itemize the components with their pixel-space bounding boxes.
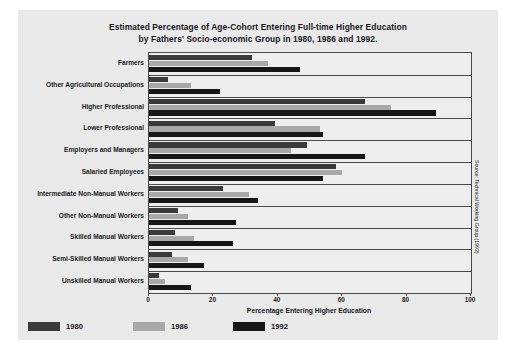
bar-1992 xyxy=(149,67,300,72)
category-label: Other Agricultural Occupations xyxy=(18,81,144,88)
bar-1980 xyxy=(149,77,168,82)
bar-1980 xyxy=(149,99,365,104)
legend-item-1980: 1980 xyxy=(28,320,83,332)
chart-title-line-1: Estimated Percentage of Age-Cohort Enter… xyxy=(109,22,407,32)
bar-1992 xyxy=(149,241,233,246)
bar-1986 xyxy=(149,279,165,284)
bar-group xyxy=(149,249,471,271)
bar-1980 xyxy=(149,55,252,60)
bar-1980 xyxy=(149,186,223,191)
x-axis-tick-label: 40 xyxy=(273,296,280,303)
chart-title: Estimated Percentage of Age-Cohort Enter… xyxy=(18,22,498,45)
bar-group xyxy=(149,118,471,140)
bar-1992 xyxy=(149,132,323,137)
bar-1992 xyxy=(149,198,258,203)
bar-1992 xyxy=(149,285,191,290)
category-label: Semi-Skilled Manual Workers xyxy=(18,255,144,262)
bar-1986 xyxy=(149,192,249,197)
bar-1992 xyxy=(149,110,436,115)
legend-swatch-1992 xyxy=(233,322,265,331)
bar-1986 xyxy=(149,170,342,175)
legend-swatch-1980 xyxy=(28,322,60,331)
bar-1992 xyxy=(149,89,220,94)
bar-1980 xyxy=(149,273,159,278)
bar-1986 xyxy=(149,83,191,88)
legend-item-1992: 1992 xyxy=(233,320,288,332)
legend-label-1992: 1992 xyxy=(271,322,288,331)
category-label: Skilled Manual Workers xyxy=(18,233,144,240)
bar-group xyxy=(149,184,471,206)
x-axis-tick-label: 0 xyxy=(146,296,150,303)
bar-1992 xyxy=(149,220,236,225)
bar-1992 xyxy=(149,176,323,181)
bar-group xyxy=(149,75,471,97)
bar-group xyxy=(149,97,471,119)
bar-1980 xyxy=(149,230,175,235)
legend-label-1986: 1986 xyxy=(171,322,188,331)
plot-area xyxy=(148,52,472,294)
category-label: Employers and Managers xyxy=(18,146,144,153)
legend-item-1986: 1986 xyxy=(133,320,188,332)
category-label: Lower Professional xyxy=(18,124,144,131)
category-label: Farmers xyxy=(18,59,144,66)
legend-label-1980: 1980 xyxy=(66,322,83,331)
bar-1986 xyxy=(149,236,194,241)
bar-1986 xyxy=(149,214,188,219)
bar-1992 xyxy=(149,263,204,268)
chart-figure: Estimated Percentage of Age-Cohort Enter… xyxy=(18,10,498,340)
category-axis-labels: FarmersOther Agricultural OccupationsHig… xyxy=(18,52,144,292)
category-label: Other Non-Manual Workers xyxy=(18,212,144,219)
bar-1986 xyxy=(149,61,268,66)
bar-1986 xyxy=(149,148,291,153)
bar-1986 xyxy=(149,126,320,131)
bar-1986 xyxy=(149,105,391,110)
source-note: Source: Technical Working Group (1993) xyxy=(474,160,480,254)
bar-group xyxy=(149,228,471,250)
bar-1980 xyxy=(149,142,307,147)
category-label: Intermediate Non-Manual Workers xyxy=(18,190,144,197)
category-label: Unskilled Manual Workers xyxy=(18,277,144,284)
bar-group xyxy=(149,206,471,228)
chart-title-line-2: by Fathers' Socio-economic Group in 1980… xyxy=(18,34,498,46)
bar-1986 xyxy=(149,257,188,262)
chart-legend: 198019861992 xyxy=(28,320,328,336)
bar-1980 xyxy=(149,252,172,257)
category-label: Higher Professional xyxy=(18,103,144,110)
bar-group xyxy=(149,53,471,75)
bar-group xyxy=(149,140,471,162)
bar-1992 xyxy=(149,154,365,159)
x-axis-title: Percentage Entering Higher Education xyxy=(148,307,470,314)
x-axis-tick-label: 80 xyxy=(402,296,409,303)
x-axis-tick-label: 60 xyxy=(338,296,345,303)
bar-group xyxy=(149,162,471,184)
bar-1980 xyxy=(149,208,178,213)
bar-1980 xyxy=(149,121,275,126)
bar-group xyxy=(149,271,471,293)
x-axis-tick-label: 20 xyxy=(209,296,216,303)
category-label: Salaried Employees xyxy=(18,168,144,175)
bar-1980 xyxy=(149,164,336,169)
x-axis-tick-label: 100 xyxy=(465,296,476,303)
legend-swatch-1986 xyxy=(133,322,165,331)
